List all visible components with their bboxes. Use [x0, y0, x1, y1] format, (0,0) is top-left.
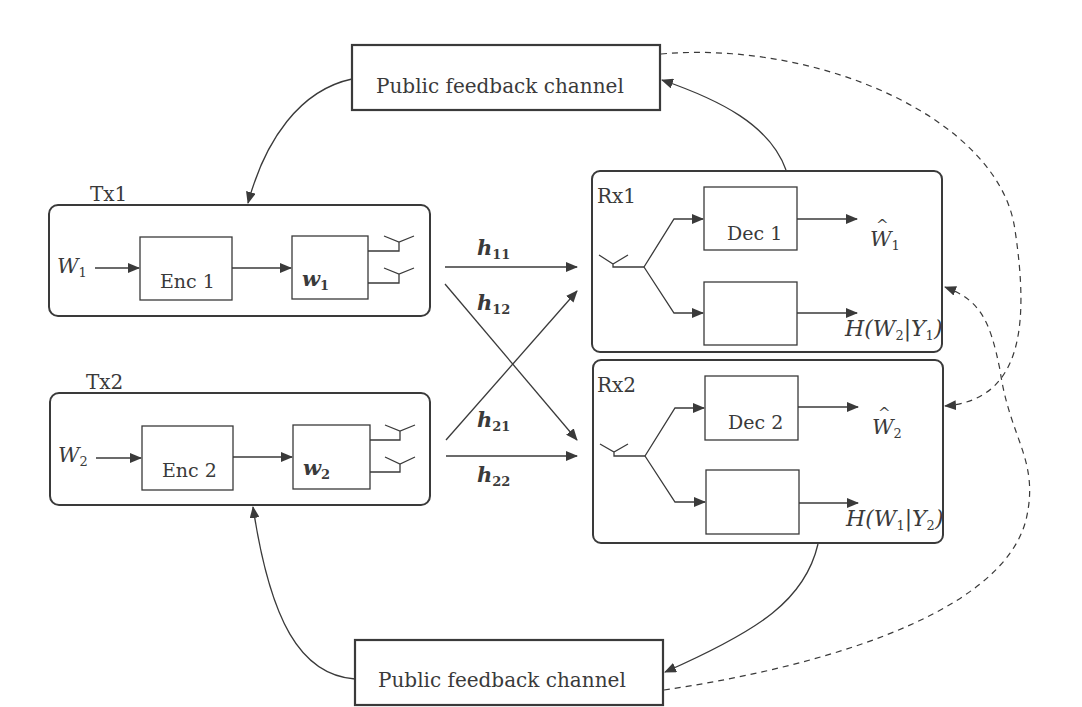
channel-label-h12: h12 [477, 292, 510, 313]
rx2-label: Rx2 [597, 375, 636, 395]
channel-label-h22: h22 [477, 464, 510, 485]
rx2-entropy-sub1: 1 [896, 518, 904, 533]
feedback-label-top: Public feedback channel [376, 76, 624, 96]
rx2-lower-block [706, 470, 799, 534]
w2-label: w2 [303, 457, 330, 478]
w1-symbol: w [302, 266, 320, 291]
enc1-label: Enc 1 [160, 272, 215, 291]
tx2-label: Tx2 [86, 372, 123, 392]
channel-label-h21: h21 [477, 409, 510, 430]
feedback-arrow-rx2-to-bottom [665, 544, 818, 672]
tx2-container [50, 393, 430, 505]
channel-h12 [445, 284, 577, 440]
rx1-entropy-mid: |Y [904, 316, 926, 341]
feedback-label-bottom: Public feedback channel [378, 670, 626, 690]
rx2-entropy-pre: H(W [846, 506, 896, 531]
w1-hat-sub: 1 [892, 238, 900, 253]
feedback-arrow-bottom-to-tx2 [253, 507, 355, 679]
tx1-input-sub: 1 [79, 265, 87, 280]
tx1-input-label: W1 [57, 256, 87, 277]
w2-symbol: w [303, 455, 321, 480]
w2-hat-sub: 2 [894, 426, 902, 441]
w1-sub: 1 [320, 278, 329, 293]
tx2-input-sub: 2 [80, 454, 88, 469]
w2-sub: 2 [321, 467, 330, 482]
h21-sub: 21 [492, 419, 510, 434]
rx1-lower-block [704, 282, 797, 345]
w1-hat-symbol: W [870, 229, 892, 250]
rx1-entropy-post: ) [934, 316, 943, 341]
feedback-arrow-top-to-tx1 [248, 79, 352, 203]
rx2-entropy-label: H(W1|Y2) [846, 508, 943, 530]
h22-symbol: h [477, 462, 492, 487]
tx1-input-symbol: W [57, 254, 79, 278]
diagram-graphics [0, 0, 1082, 707]
dec1-label: Dec 1 [727, 224, 782, 243]
rx2-entropy-sub2: 2 [927, 518, 935, 533]
h12-symbol: h [477, 290, 492, 315]
rx1-output-label: W1 [870, 229, 900, 250]
feedback-arrow-rx1-to-top [662, 80, 786, 170]
enc2-label: Enc 2 [162, 461, 217, 480]
dashed-feedback-bottom-to-rx1 [664, 287, 1030, 690]
diagram-canvas: Public feedback channel Public feedback … [0, 0, 1082, 707]
rx1-entropy-pre: H(W [845, 316, 895, 341]
h21-symbol: h [477, 407, 492, 432]
w1-label: w1 [302, 268, 329, 289]
tx2-input-label: W2 [58, 445, 88, 466]
rx1-entropy-sub1: 2 [895, 328, 903, 343]
h11-sub: 11 [492, 247, 510, 262]
tx2-input-symbol: W [58, 443, 80, 467]
rx1-entropy-label: H(W2|Y1) [845, 318, 942, 340]
rx1-label: Rx1 [597, 186, 636, 206]
rx2-entropy-mid: |Y [905, 506, 927, 531]
w2-hat-symbol: W [872, 417, 894, 438]
dec2-label: Dec 2 [728, 413, 783, 432]
rx2-output-label: W2 [872, 417, 902, 438]
rx2-entropy-post: ) [935, 506, 944, 531]
channel-label-h11: h11 [477, 237, 510, 258]
tx1-label: Tx1 [90, 184, 127, 204]
h22-sub: 22 [492, 474, 510, 489]
h11-symbol: h [477, 235, 492, 260]
tx1-container [49, 205, 430, 316]
rx1-entropy-sub2: 1 [926, 328, 934, 343]
h12-sub: 12 [492, 302, 510, 317]
